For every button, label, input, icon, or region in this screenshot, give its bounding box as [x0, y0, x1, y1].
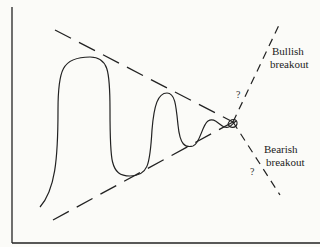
question-mark-lower: ?	[250, 166, 255, 177]
bullish-breakout-line	[233, 25, 279, 122]
bullish-label-line2: breakout	[270, 58, 308, 70]
bearish-label-line1: Bearish	[264, 143, 298, 155]
lower-trendline	[53, 122, 233, 220]
triangle-pattern-diagram: Bullish breakout Bearish breakout ? ?	[0, 0, 320, 247]
bearish-label-line2: breakout	[266, 156, 304, 168]
upper-trendline	[55, 30, 233, 122]
price-curve	[40, 57, 236, 207]
diagram-canvas: Bullish breakout Bearish breakout ? ?	[0, 0, 320, 247]
question-mark-upper: ?	[236, 89, 241, 100]
bullish-label-line1: Bullish	[272, 45, 304, 57]
